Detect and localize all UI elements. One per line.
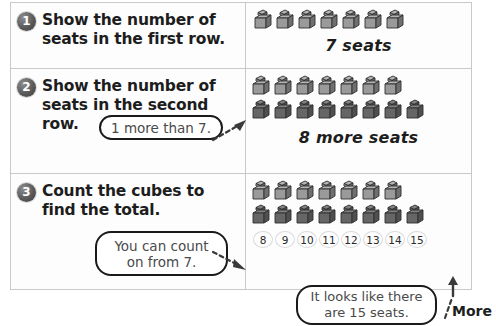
cube-icon — [296, 99, 318, 123]
worksheet-table: 1 Show the number of seats in the first … — [10, 2, 472, 290]
step-2-hint-bubble: 1 more than 7. — [99, 115, 223, 140]
count-chip: 12 — [340, 230, 362, 249]
count-chip-number: 8 — [260, 234, 267, 246]
count-chip: 15 — [406, 230, 428, 249]
cube-icon — [318, 99, 340, 123]
cube-icon — [318, 75, 340, 99]
cube-icon — [340, 180, 362, 204]
count-on-track: 89101112131415 — [250, 230, 467, 249]
step-1-visual-cell: 7 seats — [246, 3, 471, 68]
step-3-instruction: Count the cubes to find the total. — [42, 182, 239, 220]
cube-icon — [406, 204, 428, 228]
count-chip-number: 10 — [300, 234, 313, 246]
cube-icon — [318, 180, 340, 204]
count-chip: 10 — [296, 230, 318, 249]
step-3-visual-cell: 89101112131415 — [246, 174, 471, 289]
count-chip: 9 — [274, 230, 296, 249]
cube-icon — [362, 99, 384, 123]
count-chip-number: 12 — [344, 234, 357, 246]
count-chip-number: 9 — [282, 234, 289, 246]
step-1-prompt-cell: 1 Show the number of seats in the first … — [11, 3, 246, 68]
step-3-prompt-cell: 3 Count the cubes to find the total. You… — [11, 174, 246, 289]
count-chip-number: 11 — [322, 234, 335, 246]
cube-icon — [342, 9, 364, 33]
count-chip-number: 14 — [388, 234, 401, 246]
step-2-pointer-arrow — [212, 118, 252, 144]
step-row-1: 1 Show the number of seats in the first … — [11, 3, 471, 69]
cube-icon — [364, 9, 386, 33]
cube-icon — [384, 75, 406, 99]
step-2-cube-row-2 — [250, 99, 467, 123]
step-2-cube-row-1 — [250, 75, 467, 99]
cube-icon — [296, 204, 318, 228]
cube-icon — [274, 75, 296, 99]
count-chip-number: 13 — [366, 234, 379, 246]
cube-icon — [340, 75, 362, 99]
cube-icon — [362, 204, 384, 228]
cube-icon — [384, 204, 406, 228]
cube-icon — [340, 204, 362, 228]
step-3-cube-row-2 — [250, 204, 467, 228]
cube-icon — [274, 99, 296, 123]
step-3-heading: 3 Count the cubes to find the total. — [17, 182, 239, 220]
cube-icon — [254, 9, 276, 33]
more-label: More — [452, 303, 492, 319]
count-chip: 11 — [318, 230, 340, 249]
step-3-cube-row-1 — [250, 180, 467, 204]
total-answer-bubble: It looks like there are 15 seats. — [296, 285, 437, 325]
step-2-visual-cell: 8 more seats — [246, 69, 471, 173]
cube-icon — [298, 9, 320, 33]
count-chip: 13 — [362, 230, 384, 249]
step-2-prompt-cell: 2 Show the number of seats in the second… — [11, 69, 246, 173]
step-1-cube-row-1 — [250, 9, 467, 33]
step-2-caption: 8 more seats — [250, 128, 467, 147]
count-chip: 14 — [384, 230, 406, 249]
cube-icon — [340, 99, 362, 123]
cube-icon — [386, 9, 408, 33]
cube-icon — [252, 204, 274, 228]
step-number-badge-2: 2 — [17, 78, 36, 97]
cube-icon — [406, 99, 428, 123]
cube-icon — [318, 204, 340, 228]
cube-icon — [384, 99, 406, 123]
count-chip: 8 — [252, 230, 274, 249]
cube-icon — [296, 75, 318, 99]
step-number-badge-1: 1 — [17, 12, 36, 31]
cube-icon — [276, 9, 298, 33]
step-3-hint-bubble: You can count on from 7. — [95, 231, 228, 276]
cube-icon — [362, 180, 384, 204]
step-1-caption: 7 seats — [250, 36, 467, 55]
cube-icon — [274, 180, 296, 204]
count-chip-number: 15 — [410, 234, 423, 246]
cube-icon — [384, 180, 406, 204]
cube-icon — [274, 204, 296, 228]
cube-icon — [320, 9, 342, 33]
step-number-badge-3: 3 — [17, 183, 36, 202]
cube-icon — [252, 180, 274, 204]
cube-icon — [362, 75, 384, 99]
step-1-heading: 1 Show the number of seats in the first … — [17, 11, 239, 49]
cube-icon — [252, 75, 274, 99]
step-1-instruction: Show the number of seats in the first ro… — [42, 11, 239, 49]
cube-icon — [252, 99, 274, 123]
cube-icon — [296, 180, 318, 204]
step-3-pointer-arrow — [212, 248, 252, 274]
